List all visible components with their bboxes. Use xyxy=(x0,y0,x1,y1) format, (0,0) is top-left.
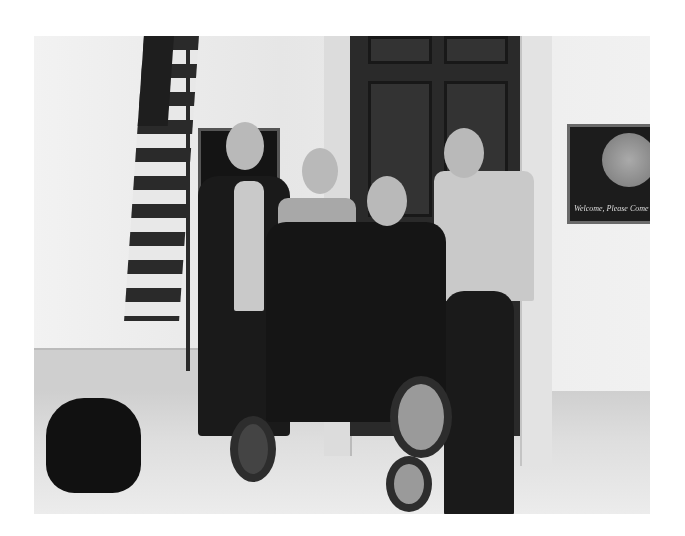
plaque-text: Welcome, Please Come xyxy=(574,204,649,213)
nameplate-right: Welcome, Please Come xyxy=(567,124,650,224)
flag-pole xyxy=(186,36,190,371)
photograph: Welcome, Please Come xyxy=(34,36,650,514)
wheelchair-wheel xyxy=(390,376,452,458)
service-dog xyxy=(46,398,141,493)
person-man-right xyxy=(434,171,534,301)
seal-icon xyxy=(602,133,650,187)
baseboard-left xyxy=(34,348,224,395)
